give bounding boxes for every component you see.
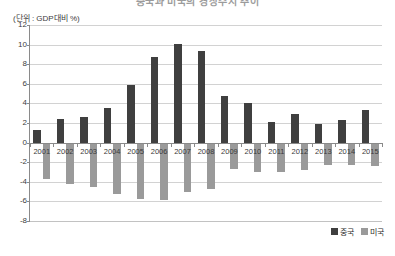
x-tick-label-2004: 2004	[99, 147, 125, 156]
bar-중국-2008	[198, 51, 206, 142]
plot-area: 121086420-2-4-6-8 2001200220032004200520…	[29, 25, 381, 221]
y-tick-label--2: -2	[7, 157, 27, 166]
x-tick-label-2015: 2015	[357, 147, 383, 156]
x-tick-label-2010: 2010	[240, 147, 266, 156]
y-tick-label-8: 8	[7, 59, 27, 68]
bar-중국-2014	[338, 120, 346, 143]
legend-label: 미국	[370, 226, 384, 237]
bars-layer	[30, 25, 382, 221]
y-tick-label--8: -8	[7, 216, 27, 225]
gridline--8	[30, 221, 382, 222]
legend-item-중국[interactable]: 중국	[331, 226, 354, 237]
bar-중국-2013	[315, 124, 323, 143]
x-tick-label-2008: 2008	[193, 147, 219, 156]
x-tick-label-2014: 2014	[334, 147, 360, 156]
x-tick-label-2011: 2011	[263, 147, 289, 156]
x-tick-label-2013: 2013	[310, 147, 336, 156]
x-tick-label-2009: 2009	[216, 147, 242, 156]
x-tick-mark-end	[382, 143, 383, 147]
bar-중국-2002	[57, 119, 65, 143]
bar-중국-2006	[151, 57, 159, 142]
x-tick-label-2001: 2001	[29, 147, 55, 156]
legend-item-미국[interactable]: 미국	[361, 226, 384, 237]
bar-중국-2011	[268, 122, 276, 143]
y-tick-label-0: 0	[7, 138, 27, 147]
x-tick-label-2005: 2005	[123, 147, 149, 156]
bar-중국-2012	[291, 114, 299, 142]
y-tick-label-6: 6	[7, 79, 27, 88]
legend-swatch-icon-미국	[361, 228, 368, 235]
bar-중국-2005	[127, 85, 135, 143]
page-title: 중국과 미국의 경상수지 추이	[136, 0, 260, 8]
y-tick-label-2: 2	[7, 118, 27, 127]
y-tick-mark--8	[27, 221, 30, 222]
x-tick-label-2002: 2002	[52, 147, 78, 156]
y-tick-label-4: 4	[7, 98, 27, 107]
x-tick-label-2006: 2006	[146, 147, 172, 156]
y-tick-label-12: 12	[7, 20, 27, 29]
bar-중국-2003	[80, 117, 88, 142]
y-tick-label--6: -6	[7, 196, 27, 205]
x-tick-label-2007: 2007	[170, 147, 196, 156]
bar-중국-2009	[221, 96, 229, 143]
bar-중국-2001	[33, 130, 41, 143]
chart-title-strip: 중국과 미국의 경상수지 추이	[0, 0, 395, 9]
legend-label: 중국	[340, 226, 354, 237]
x-tick-label-2003: 2003	[76, 147, 102, 156]
legend-swatch-icon-중국	[331, 228, 338, 235]
bar-중국-2004	[104, 108, 112, 142]
y-tick-label-10: 10	[7, 40, 27, 49]
y-tick-label--4: -4	[7, 177, 27, 186]
legend: 중국미국	[331, 226, 384, 237]
bar-중국-2007	[174, 44, 182, 143]
zero-axis-line	[30, 143, 382, 144]
bar-중국-2015	[362, 110, 370, 142]
x-tick-label-2012: 2012	[287, 147, 313, 156]
bar-중국-2010	[244, 103, 252, 142]
